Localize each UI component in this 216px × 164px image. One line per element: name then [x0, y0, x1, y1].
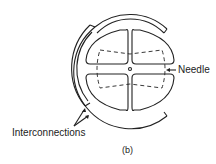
pad-top-right [132, 29, 174, 64]
electrode-diagram [0, 0, 216, 164]
figure-caption: (b) [122, 146, 133, 155]
center-hole [129, 68, 132, 71]
pad-bottom-right [132, 74, 174, 111]
needle-label: Needle [178, 65, 210, 75]
pad-bottom-left [86, 74, 128, 111]
pad-top-left [86, 29, 128, 64]
interconnections-label: Interconnections [12, 128, 85, 138]
outer-ring [74, 27, 167, 129]
